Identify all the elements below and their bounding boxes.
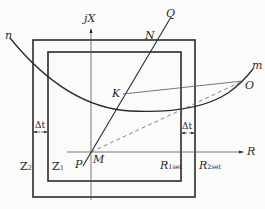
- point-q-label: Q: [166, 8, 175, 19]
- point-p-label: P: [75, 159, 82, 170]
- z1-sub: 1: [60, 164, 64, 172]
- trajectory-curve: [10, 38, 253, 111]
- zone-z1-label: Z1: [52, 161, 64, 172]
- outer-zone-box: [33, 40, 195, 197]
- point-n-label: n: [5, 30, 12, 41]
- r1set-label: R1set: [160, 160, 182, 171]
- delta-t-left-label: Δt: [35, 121, 45, 130]
- z2-main: Z: [20, 160, 28, 173]
- diagram-canvas: jX R n m Q N K O M P Z2 Z1 R1set R2set Δ…: [0, 0, 265, 209]
- x-letter: X: [87, 12, 95, 25]
- point-o-label: O: [245, 80, 254, 91]
- zone-z2-label: Z2: [20, 161, 32, 172]
- r1-sub: 1set: [168, 163, 182, 171]
- point-n-upper-label: N: [145, 30, 155, 41]
- point-m-upper-label: M: [93, 154, 104, 165]
- r2set-label: R2set: [199, 160, 221, 171]
- z1-main: Z: [52, 160, 60, 173]
- point-m-label: m: [252, 60, 262, 71]
- r2-sub: 2set: [207, 163, 221, 171]
- delta-t-right-label: Δt: [182, 122, 192, 131]
- point-k-label: K: [112, 88, 120, 99]
- diagram-graphics: [0, 0, 265, 209]
- chord-k-o: [123, 81, 243, 94]
- z2-sub: 2: [28, 164, 32, 172]
- r-axis-label: R: [247, 146, 255, 157]
- jx-axis-label: jX: [84, 13, 95, 24]
